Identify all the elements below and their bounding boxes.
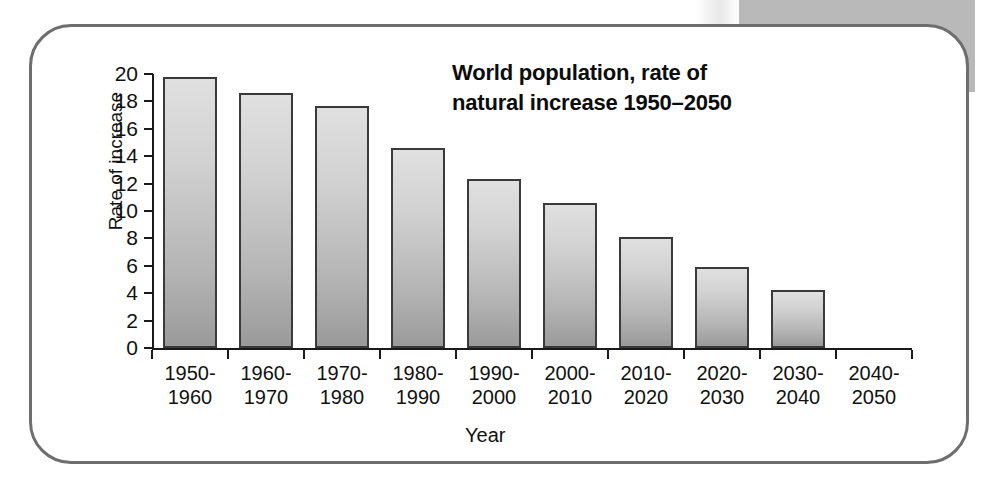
x-axis-tick-label: 1980-1990 [380,362,456,409]
x-axis-tick-label-line: 2010 [532,386,608,410]
bar [619,237,673,348]
bar [543,203,597,348]
y-axis-tick-label: 20 [96,63,138,84]
x-axis-tick-label-line: 2020 [608,386,684,410]
x-axis-tick [227,350,229,359]
x-axis-tick-label-line: 2030 [684,386,760,410]
x-axis-tick [607,350,609,359]
chart-page: World population, rate of natural increa… [0,0,1006,503]
x-axis-tick-label-line: 1970 [228,386,304,410]
x-axis-tick [303,350,305,359]
x-axis-tick-label-line: 1960- [228,362,304,386]
bar [771,290,825,348]
x-axis-tick-label-line: 2040 [760,386,836,410]
y-axis-tick-label: 12 [96,173,138,194]
y-axis-tick-label: 6 [96,255,138,276]
bar-chart: World population, rate of natural increa… [0,0,1006,503]
x-axis-tick-label-line: 2000- [532,362,608,386]
x-axis-tick [455,350,457,359]
bar [315,106,369,348]
x-axis-tick-label-line: 2030- [760,362,836,386]
bar [163,77,217,348]
y-axis-tick-label: 0 [96,337,138,358]
x-axis-tick-label: 2040-2050 [836,362,912,409]
x-axis-tick [835,350,837,359]
y-axis-line [152,74,154,350]
y-axis-tick-label: 2 [96,310,138,331]
y-axis-tick-label: 8 [96,227,138,248]
x-axis-tick [683,350,685,359]
x-axis-tick-label-line: 1980- [380,362,456,386]
chart-title-line-1: World population, rate of [452,58,864,88]
x-axis-tick [531,350,533,359]
x-axis-tick [379,350,381,359]
x-axis-tick-label: 2020-2030 [684,362,760,409]
x-axis-title: Year [465,424,505,447]
bar [239,93,293,348]
x-axis-tick-label-line: 2040- [836,362,912,386]
x-axis-tick-label-line: 1970- [304,362,380,386]
x-axis-tick-label-line: 1990 [380,386,456,410]
x-axis-tick-label-line: 2000 [456,386,532,410]
x-axis-tick-label-line: 1980 [304,386,380,410]
x-axis-tick-label-line: 2050 [836,386,912,410]
chart-title-line-2: natural increase 1950–2050 [452,88,864,118]
y-axis-tick-label: 14 [96,145,138,166]
bar [391,148,445,348]
x-axis-tick [759,350,761,359]
x-axis-tick [151,350,153,359]
y-axis-tick-label: 16 [96,118,138,139]
x-axis-tick-label-line: 1990- [456,362,532,386]
bar [695,267,749,348]
x-axis-tick [911,350,913,359]
y-axis-tick-label: 18 [96,90,138,111]
x-axis-tick-label-line: 1950- [152,362,228,386]
x-axis-tick-label: 2030-2040 [760,362,836,409]
x-axis-tick-label-line: 2010- [608,362,684,386]
x-axis-tick-label: 1950-1960 [152,362,228,409]
x-axis-tick-label: 2010-2020 [608,362,684,409]
y-axis-tick-label: 4 [96,282,138,303]
x-axis-tick-label: 2000-2010 [532,362,608,409]
x-axis-tick-label: 1990-2000 [456,362,532,409]
bar [467,179,521,348]
x-axis-tick-label: 1960-1970 [228,362,304,409]
y-axis-tick-label: 10 [96,200,138,221]
x-axis-tick-label: 1970-1980 [304,362,380,409]
chart-title: World population, rate of natural increa… [452,58,864,117]
x-axis-tick-label-line: 2020- [684,362,760,386]
x-axis-tick-label-line: 1960 [152,386,228,410]
